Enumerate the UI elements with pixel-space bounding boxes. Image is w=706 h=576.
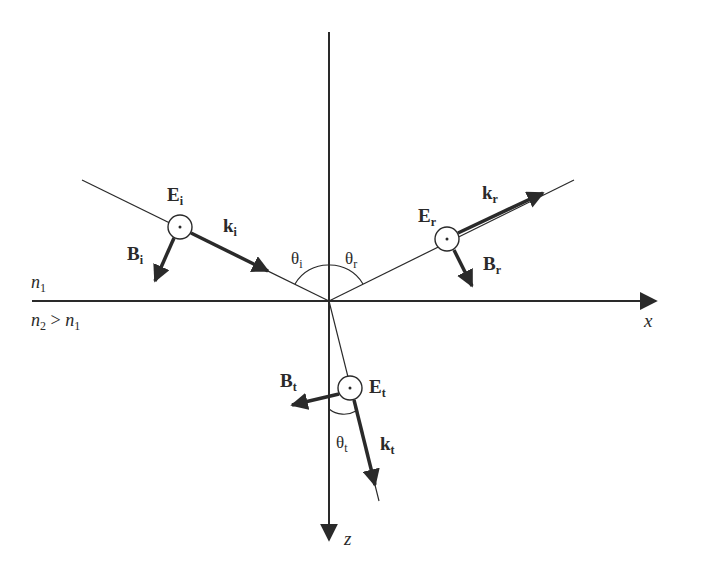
e-r-label: Er	[418, 205, 437, 229]
medium-2-label: n2 > n1	[31, 310, 80, 333]
e-t-dot	[349, 387, 352, 390]
theta-t-label: θt	[336, 433, 348, 455]
k-i-label: ki	[223, 215, 238, 239]
theta-t-arc	[329, 409, 356, 414]
e-t-label: Et	[369, 376, 386, 400]
k-t-arrow	[354, 400, 375, 485]
b-r-arrow	[454, 250, 472, 286]
z-axis-label: z	[343, 528, 352, 549]
theta-i-label: θi	[291, 249, 303, 271]
theta-r-label: θr	[345, 249, 357, 271]
e-i-label: Ei	[167, 184, 184, 208]
b-t-label: Bt	[280, 370, 297, 394]
k-t-label: kt	[380, 433, 395, 457]
e-r-dot	[446, 238, 449, 241]
k-i-arrow	[191, 233, 268, 271]
b-i-label: Bi	[127, 243, 144, 267]
b-t-arrow	[292, 394, 339, 405]
medium-1-label: n1	[31, 272, 46, 295]
b-i-arrow	[155, 238, 174, 281]
k-r-arrow	[458, 193, 543, 233]
b-r-label: Br	[483, 253, 502, 277]
reflection-refraction-diagram: Ei ki Bi θi Er kr Br θr Et kt Bt θt n1 n…	[0, 0, 706, 576]
k-r-label: kr	[482, 182, 499, 206]
x-axis-label: x	[643, 310, 653, 331]
e-i-dot	[179, 226, 182, 229]
